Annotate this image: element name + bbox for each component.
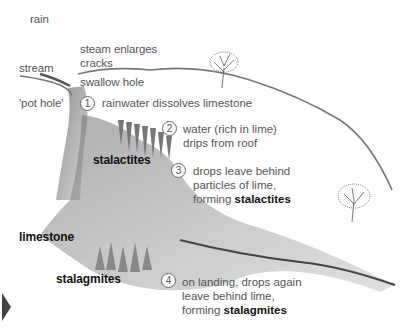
label-stalactites: stalactites bbox=[93, 154, 151, 167]
step-number: 4 bbox=[161, 273, 176, 288]
step-number: 2 bbox=[162, 121, 177, 136]
step-text: water (rich in lime) bbox=[183, 123, 277, 136]
step-text: drips from roof bbox=[183, 137, 257, 150]
label-cracks: cracks bbox=[80, 57, 113, 70]
tree-right bbox=[338, 184, 370, 222]
step-text: forming stalagmites bbox=[182, 304, 287, 317]
tree-top bbox=[210, 52, 238, 88]
step-text: drops leave behind bbox=[193, 165, 290, 178]
step-text: particles of lime, bbox=[193, 179, 276, 192]
label-stream-enlarges: steam enlarges bbox=[80, 43, 157, 56]
step-text-prefix: forming bbox=[182, 304, 224, 316]
label-pot-hole: 'pot hole' bbox=[19, 97, 63, 110]
label-stalagmites: stalagmites bbox=[56, 273, 121, 286]
step-text: rainwater dissolves limestone bbox=[102, 97, 252, 110]
step-text: leave behind lime, bbox=[182, 290, 275, 303]
label-limestone: limestone bbox=[19, 231, 74, 244]
step-text: forming stalactites bbox=[193, 193, 291, 206]
next-arrow-icon[interactable] bbox=[2, 293, 11, 321]
step-text-bold: stalagmites bbox=[224, 304, 287, 316]
step-text: on landing, drops again bbox=[182, 276, 302, 289]
step-number: 1 bbox=[80, 96, 95, 111]
label-swallow-hole: swallow hole bbox=[80, 76, 144, 89]
label-stream: stream bbox=[19, 62, 54, 75]
step-text-prefix: forming bbox=[193, 193, 235, 205]
step-text-bold: stalactites bbox=[235, 193, 291, 205]
label-rain: rain bbox=[30, 13, 49, 26]
step-number: 3 bbox=[171, 163, 186, 178]
